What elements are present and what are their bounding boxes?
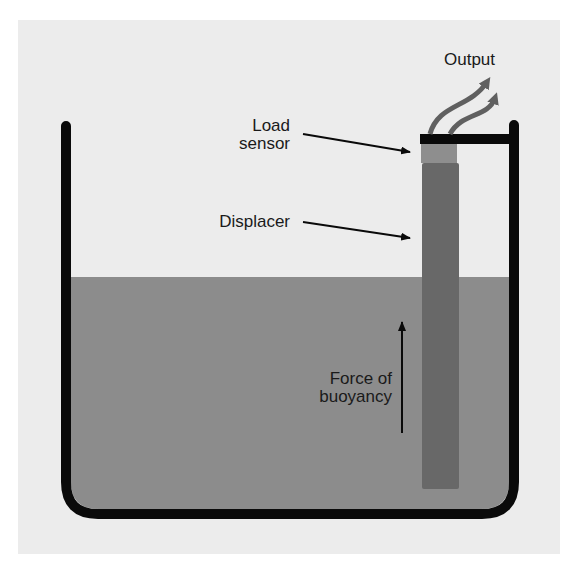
displacer-level-sensor-diagram xyxy=(0,0,583,570)
load-sensor-label-line2: sensor xyxy=(230,134,290,153)
displacer-pointer-arrow-icon xyxy=(303,222,410,238)
buoyancy-label-line1: Force of xyxy=(300,369,392,388)
output-label: Output xyxy=(444,50,495,69)
displacer-label: Displacer xyxy=(190,212,290,231)
buoyancy-label-line2: buoyancy xyxy=(300,387,392,406)
load-sensor-pointer-arrow-icon xyxy=(303,134,410,152)
support-bar xyxy=(420,134,516,144)
load-sensor xyxy=(421,144,457,163)
displacer xyxy=(422,163,459,489)
load-sensor-label-line1: Load xyxy=(230,116,290,135)
